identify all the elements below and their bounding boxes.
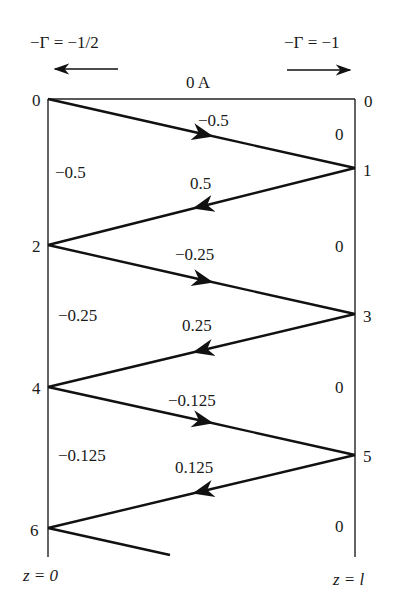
right-region-value-1: 0 (335, 125, 344, 144)
wave-label-3: −0.25 (175, 245, 214, 264)
left-region-value-3: −0.125 (58, 446, 106, 465)
left-reflection-label: −Γ = −1/2 (30, 33, 99, 52)
right-tick-1: 1 (363, 161, 372, 180)
left-axis-label: z = 0 (22, 566, 59, 585)
right-region-value-2: 0 (335, 237, 344, 256)
wave-label-5: −0.125 (168, 391, 216, 410)
right-axis-label: z = l (332, 570, 365, 589)
right-reflection-label: −Γ = −1 (284, 33, 340, 52)
right-tick-5: 5 (363, 447, 372, 466)
wave-label-4: 0.25 (182, 316, 212, 335)
left-region-value-2: −0.25 (58, 306, 97, 325)
initial-current-label: 0 A (186, 73, 211, 92)
wave-label-2: 0.5 (190, 174, 211, 193)
wave-label-1: −0.5 (198, 111, 229, 130)
right-region-value-4: 0 (335, 517, 344, 536)
right-tick-3: 3 (363, 307, 372, 326)
left-tick-2: 2 (32, 237, 41, 256)
wave-label-6: 0.125 (175, 458, 213, 477)
left-region-value-1: −0.5 (55, 163, 86, 182)
bounce-diagram: −Γ = −1/2 −Γ = −1 0 A (0, 0, 397, 609)
left-tick-4: 4 (32, 379, 41, 398)
left-tick-6: 6 (30, 521, 39, 540)
left-tick-0: 0 (32, 91, 41, 110)
right-region-value-3: 0 (335, 378, 344, 397)
right-tick-0: 0 (364, 92, 373, 111)
